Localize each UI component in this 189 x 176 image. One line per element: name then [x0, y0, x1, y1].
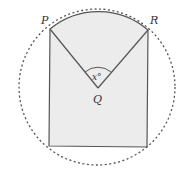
label-P: P — [40, 14, 49, 27]
geometry-diagram: x° P R Q — [0, 0, 189, 176]
angle-label: x° — [92, 72, 102, 82]
label-Q: Q — [93, 93, 102, 106]
label-R: R — [149, 14, 158, 27]
